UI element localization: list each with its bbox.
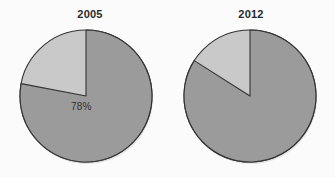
pie-title-2012: 2012 (163, 8, 335, 21)
pie-title-2005: 2005 (0, 8, 176, 21)
pie-svg-2012 (163, 24, 335, 172)
pie-svg-2005 (0, 24, 172, 172)
pie-chart-2012: 2012 84% (163, 0, 335, 177)
pie-chart-figure: 2005 78% 2012 84% (0, 0, 335, 177)
pie-chart-2005: 2005 78% (0, 0, 172, 177)
pie-percent-label-2005: 78% (71, 101, 92, 112)
